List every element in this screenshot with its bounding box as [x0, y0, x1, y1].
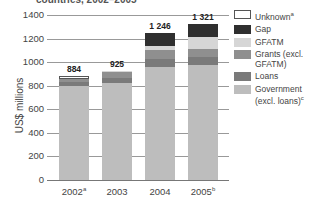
y-tick-label: 1400 — [0, 9, 44, 20]
x-tick-label: 2005b — [183, 186, 223, 197]
bar-total-label: 1 321 — [183, 12, 223, 22]
legend-label: Loans — [255, 72, 278, 82]
bar-segment-grants-excl-gfatm- — [188, 49, 218, 57]
legend: UnknownaGapGFATMGrants (excl. GFATM)Loan… — [234, 10, 309, 110]
y-tick-label: 1200 — [0, 33, 44, 44]
y-tick-label: 400 — [0, 127, 44, 138]
stacked-bar-2005 — [188, 24, 218, 180]
bar-total-label: 884 — [54, 64, 94, 74]
legend-item: Grants (excl. GFATM) — [234, 50, 309, 69]
bar-segment-government-excl-loans- — [102, 83, 132, 180]
gridline — [47, 180, 229, 181]
bar-segment-government-excl-loans- — [188, 65, 218, 180]
legend-item: Unknowna — [234, 10, 309, 22]
legend-item: Gap — [234, 25, 309, 35]
legend-item: Government (excl. loans)c — [234, 85, 309, 107]
legend-label: Gap — [255, 25, 271, 35]
bar-segment-gap — [145, 33, 175, 46]
x-tick-label: 2004 — [140, 186, 180, 197]
y-tick-label: 600 — [0, 103, 44, 114]
legend-swatch — [234, 10, 251, 19]
y-tick-label: 0 — [0, 174, 44, 185]
legend-label: Grants (excl. GFATM) — [255, 50, 309, 69]
legend-label: Government (excl. loans)c — [255, 85, 309, 107]
bar-segment-loans — [145, 59, 175, 67]
x-tick-label: 2002a — [54, 186, 94, 197]
y-tick-label: 200 — [0, 150, 44, 161]
bar-segment-gfatm — [188, 37, 218, 49]
legend-item: Loans — [234, 72, 309, 82]
stacked-bar-2004 — [145, 33, 175, 180]
bar-segment-loans — [188, 57, 218, 65]
y-tick-label: 1000 — [0, 56, 44, 67]
stacked-bar-2002 — [59, 76, 89, 180]
bar-segment-gap — [188, 24, 218, 36]
legend-label: GFATM — [255, 38, 284, 48]
y-tick-label: 800 — [0, 80, 44, 91]
bar-segment-grants-excl-gfatm- — [145, 50, 175, 59]
legend-swatch — [234, 50, 251, 59]
bar-total-label: 925 — [97, 59, 137, 69]
bar-total-label: 1 246 — [140, 21, 180, 31]
legend-swatch — [234, 72, 251, 81]
legend-label: Unknowna — [255, 10, 294, 22]
x-tick-label: 2003 — [97, 186, 137, 197]
legend-swatch — [234, 25, 251, 34]
legend-swatch — [234, 38, 251, 47]
chart-title: countries, 2002–2005 — [36, 0, 137, 5]
bar-segment-government-excl-loans- — [59, 86, 89, 180]
bar-segment-government-excl-loans- — [145, 67, 175, 180]
legend-item: GFATM — [234, 38, 309, 48]
stacked-bar-2003 — [102, 71, 132, 180]
legend-swatch — [234, 85, 251, 94]
